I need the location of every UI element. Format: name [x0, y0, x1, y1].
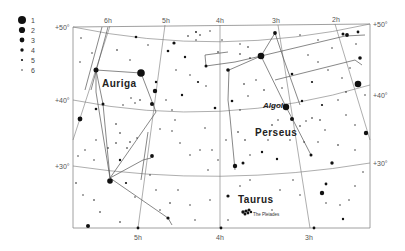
star-p: [166, 216, 169, 219]
star-label-algol: Algol: [262, 101, 284, 110]
legend-mag-6-dot: [21, 69, 22, 70]
faint-star: [303, 141, 304, 142]
star-ah: [181, 94, 183, 96]
faint-star: [305, 120, 306, 121]
star-c: [78, 117, 83, 122]
faint-star: [171, 130, 172, 131]
faint-star: [159, 128, 160, 129]
faint-star: [249, 179, 250, 180]
faint-star: [247, 95, 248, 96]
faint-star: [319, 119, 321, 121]
star-mirfak: [258, 53, 265, 60]
faint-star: [341, 77, 342, 78]
star-v: [231, 100, 234, 103]
faint-star: [299, 34, 300, 35]
legend-mag-5-dot: [21, 59, 23, 61]
star-o: [86, 224, 90, 228]
faint-star: [80, 37, 81, 38]
stars: [75, 30, 368, 229]
faint-star: [189, 154, 190, 155]
faint-star: [263, 89, 265, 91]
taurus-line-3: [141, 132, 148, 180]
faint-star: [122, 104, 123, 105]
star-algol: [283, 104, 289, 110]
faint-star: [189, 204, 190, 205]
dec-left-50: +50°: [55, 24, 70, 31]
faint-star: [354, 149, 355, 150]
star-ak: [261, 151, 263, 153]
star-as: [321, 104, 323, 106]
faint-star: [175, 69, 176, 70]
faint-star: [130, 97, 131, 98]
faint-star: [317, 61, 318, 62]
faint-star: [95, 139, 96, 140]
faint-star: [93, 199, 95, 201]
pleiades-star: [247, 208, 250, 211]
taurus-lines: [110, 178, 172, 225]
star-n: [150, 154, 154, 158]
legend-mag-1-label: 1: [31, 17, 35, 24]
star-aq: [197, 81, 199, 83]
faint-star: [171, 109, 172, 110]
star-r: [310, 154, 313, 157]
faint-star: [337, 99, 338, 100]
star-ai: [125, 182, 127, 184]
ra-top-4h: 4h: [216, 17, 224, 24]
faint-star: [194, 219, 195, 220]
faint-star: [239, 53, 241, 55]
ra-bottom-3h: 3h: [305, 234, 313, 241]
faint-star: [115, 142, 117, 144]
dec-left-40: +40°: [55, 97, 70, 104]
star-menkalinan: [94, 68, 99, 73]
faint-star: [217, 159, 218, 160]
faint-star: [217, 51, 219, 53]
legend-mag-4-label: 4: [31, 47, 35, 54]
faint-star: [271, 124, 273, 126]
faint-star: [255, 79, 256, 80]
faint-star: [249, 154, 250, 155]
pleiades-cluster: [241, 208, 252, 215]
faint-star: [325, 202, 326, 203]
faint-star: [289, 139, 290, 140]
faint-star: [195, 31, 197, 33]
faint-star: [221, 39, 222, 40]
constellation-label-taurus: Taurus: [238, 194, 274, 205]
star-capella: [137, 69, 145, 77]
star-x: [102, 103, 105, 106]
faint-star: [149, 174, 150, 175]
star-e: [233, 164, 237, 168]
star-ab: [313, 227, 316, 230]
star-ac: [291, 73, 294, 76]
star-elnath: [107, 178, 113, 184]
faint-star: [355, 43, 356, 44]
faint-star: [159, 209, 160, 210]
star-t: [342, 33, 345, 36]
faint-star: [327, 69, 328, 70]
star-k: [226, 68, 230, 72]
dec-line-30: [73, 163, 370, 176]
ra-top-3h: 3h: [272, 17, 280, 24]
faint-star: [279, 189, 280, 190]
faint-star: [317, 39, 318, 40]
star-m: [226, 194, 229, 197]
star-b: [150, 102, 154, 106]
map-frame: [73, 24, 370, 228]
ra-bottom-5h: 5h: [134, 234, 142, 241]
faint-star: [345, 114, 346, 115]
faint-star: [179, 142, 180, 143]
star-y: [95, 108, 98, 111]
ra-line-2h: [335, 24, 370, 140]
legend-mag-3-label: 3: [31, 37, 35, 44]
star-chart: 1 2 3 4 5 6 6h 5h 4h 3h 2h 5h 4h 3h +50°…: [0, 0, 405, 251]
legend-mag-5-label: 5: [31, 57, 35, 64]
star-z: [220, 227, 223, 230]
star-ad: [167, 50, 170, 53]
magnitude-legend: 1 2 3 4 5 6: [18, 16, 35, 74]
constellation-label-perseus: Perseus: [255, 127, 297, 138]
star-aa: [137, 227, 140, 230]
dec-line-40: [73, 85, 370, 112]
perseus-lines-4: [205, 52, 261, 66]
faint-star: [239, 109, 240, 110]
faint-star: [239, 43, 240, 44]
faint-star: [281, 87, 282, 88]
